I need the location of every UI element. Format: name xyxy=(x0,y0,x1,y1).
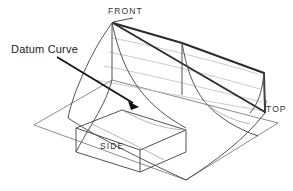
ridge-edges-group xyxy=(113,23,265,112)
view-label-front: FRONT xyxy=(108,6,143,16)
side-box-top-face xyxy=(76,110,186,150)
side-box-bottom-front xyxy=(76,152,186,172)
ridge-edge-front-to-top xyxy=(113,23,265,112)
front-profile-curve-left xyxy=(68,23,112,118)
surface-boundary-group xyxy=(68,23,265,180)
datum-curve-arrowhead xyxy=(128,101,139,110)
view-label-top: TOP xyxy=(266,104,287,114)
wireframe-svg xyxy=(0,0,293,191)
datum-curve-leader-line xyxy=(57,57,133,103)
side-box-group xyxy=(76,110,186,172)
front-label-leader-line xyxy=(113,18,133,22)
lower-sweep-boundary xyxy=(68,118,186,180)
lower-sweep-boundary-2 xyxy=(186,113,265,180)
cad-drawing-canvas: FRONT TOP SIDE Datum Curve xyxy=(0,0,293,191)
view-label-side: SIDE xyxy=(100,141,124,151)
surface-mesh-group xyxy=(95,38,264,111)
ridge-edge-upper-back xyxy=(113,23,264,73)
front-label-leader-group xyxy=(113,18,133,22)
datum-curve-annotation-label: Datum Curve xyxy=(11,43,78,55)
